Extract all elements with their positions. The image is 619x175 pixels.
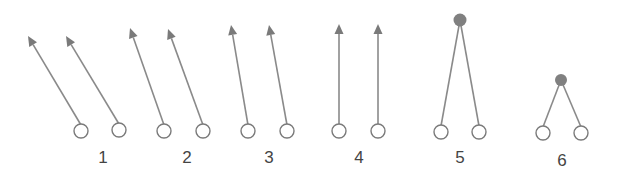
panel-label-1: 1	[98, 148, 107, 167]
panel-6-left-link	[543, 80, 561, 127]
panel-1-left-open-circle	[74, 124, 88, 138]
panel-5-right-open-circle	[472, 125, 486, 139]
panel-3-left-open-circle	[241, 124, 255, 138]
panel-6-right-open-circle	[574, 126, 588, 140]
panel-2-left-shaft	[133, 37, 164, 125]
panel-4-right-arrowhead-icon	[374, 24, 383, 34]
panel-2-right-shaft	[171, 38, 203, 125]
panel-5-right-link	[460, 20, 479, 126]
panel-1-right-shaft	[71, 45, 119, 124]
panel-3-right-open-circle	[280, 124, 294, 138]
panel-3-right-shaft	[271, 35, 287, 125]
panel-2-left-arrowhead-icon	[129, 28, 137, 39]
panel-2-left-open-circle	[157, 124, 171, 138]
panel-label-5: 5	[455, 148, 464, 167]
panel-3-left-arrowhead-icon	[228, 25, 237, 36]
panel-1-right-open-circle	[112, 123, 126, 137]
panel-1-left-arrowhead-icon	[28, 36, 37, 47]
panel-label-3: 3	[264, 148, 273, 167]
panel-label-2: 2	[182, 148, 191, 167]
panel-6-right-link	[561, 80, 581, 127]
panel-3-right-arrowhead-icon	[266, 25, 275, 36]
panel-5-filled-dot	[454, 14, 467, 27]
panel-4-right-open-circle	[371, 124, 385, 138]
panel-label-6: 6	[557, 151, 566, 170]
panel-4-left-open-circle	[332, 124, 346, 138]
panel-label-4: 4	[354, 148, 363, 167]
panel-5-left-open-circle	[434, 125, 448, 139]
diagram-canvas: 1 2 3 4 5 6	[0, 0, 619, 175]
panel-2-right-arrowhead-icon	[167, 29, 175, 40]
panel-6-filled-dot	[555, 74, 567, 86]
panel-5-left-link	[441, 20, 460, 126]
panel-6-left-open-circle	[536, 126, 550, 140]
panel-4-left-arrowhead-icon	[335, 24, 344, 34]
panel-1-right-arrowhead-icon	[66, 36, 75, 47]
panel-3-left-shaft	[233, 35, 248, 125]
panel-1-left-shaft	[33, 45, 81, 125]
panel-2-right-open-circle	[196, 124, 210, 138]
